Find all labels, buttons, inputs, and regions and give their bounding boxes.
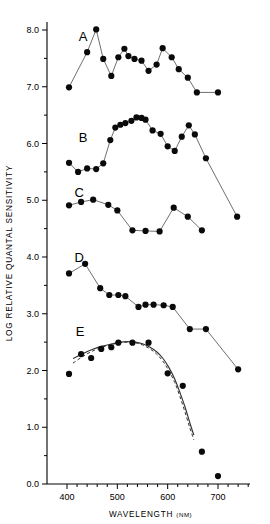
data-point-B [107,137,113,143]
data-point-B [149,127,155,133]
data-point-B [84,165,90,171]
data-point-D [170,304,176,310]
data-point-C [185,214,191,220]
data-point-D [66,270,72,276]
data-point-D [106,292,112,298]
data-point-B [179,134,185,140]
data-point-C [129,227,135,233]
data-point-E [129,340,135,346]
series-label-D: D [74,250,83,265]
series-label-E: E [76,324,85,339]
y-tick-label: 7.0 [26,82,39,92]
data-point-C [142,228,148,234]
data-point-B [158,131,164,137]
y-tick-label: 0.0 [26,479,39,489]
data-point-B [100,160,106,166]
data-point-C [157,228,163,234]
data-point-A [131,56,137,62]
data-point-A [84,49,90,55]
data-point-B [165,143,171,149]
data-point-E [66,371,72,377]
data-point-E [108,344,114,350]
y-tick-label: 4.0 [26,252,39,262]
data-point-A [93,26,99,32]
data-point-E [78,351,84,357]
data-point-B [66,160,72,166]
data-point-B [192,131,198,137]
data-point-D [161,302,167,308]
data-point-A [115,54,121,60]
data-point-D [203,326,209,332]
y-tick-label: 1.0 [26,422,39,432]
data-point-A [145,68,151,74]
data-point-B [172,148,178,154]
x-axis-title: WAVELENGTH (NM) [109,510,192,519]
data-point-A [169,54,175,60]
y-tick-label: 3.0 [26,309,39,319]
data-point-A [100,56,106,62]
data-point-A [185,75,191,81]
data-point-D [97,285,103,291]
data-point-A [153,62,159,68]
data-point-A [176,66,182,72]
data-point-E [98,346,104,352]
x-tick-label: 600 [160,492,175,502]
data-point-D [115,292,121,298]
y-tick-label: 6.0 [26,139,39,149]
data-point-E [145,340,151,346]
data-point-C [114,207,120,213]
y-tick-label: 8.0 [26,25,39,35]
data-point-A [66,84,72,90]
data-point-C [90,197,96,203]
x-axis-unit: (NM) [176,511,192,518]
data-point-D [142,302,148,308]
data-point-C [105,202,111,208]
data-point-B [122,120,128,126]
y-axis-title: LOG RELATIVE QUANTAL SENSITIVITY [5,165,14,342]
data-point-A [108,73,114,79]
data-point-D [150,302,156,308]
data-point-E [180,383,186,389]
data-point-A [121,46,127,52]
y-tick-label: 5.0 [26,195,39,205]
data-point-E [165,370,171,376]
data-point-D [135,304,141,310]
data-point-B [93,166,99,172]
data-point-C [199,227,205,233]
data-point-C [171,205,177,211]
chart-container: 400500600700 0.01.02.03.04.05.06.07.08.0… [0,0,270,524]
data-point-D [122,293,128,299]
data-point-C [66,202,72,208]
data-point-D [235,366,241,372]
data-point-B [186,122,192,128]
y-tick-label: 2.0 [26,366,39,376]
data-point-A [138,58,144,64]
x-tick-label: 700 [210,492,225,502]
plot-background [0,0,270,524]
data-point-E [215,473,221,479]
data-point-B [142,117,148,123]
data-point-B [75,169,81,175]
data-point-B [234,214,240,220]
data-point-D [187,326,193,332]
data-point-E [115,340,121,346]
series-label-B: B [79,130,88,145]
data-point-A [160,45,166,51]
data-point-B [203,155,209,161]
x-tick-label: 400 [59,492,74,502]
spectral-sensitivity-chart: 400500600700 0.01.02.03.04.05.06.07.08.0… [0,0,270,524]
data-point-A [215,89,221,95]
data-point-B [128,118,134,124]
x-tick-label: 500 [110,492,125,502]
series-label-A: A [79,29,88,44]
data-point-E [199,449,205,455]
data-point-A [194,89,200,95]
data-point-A [125,53,131,59]
data-point-E [88,355,94,361]
series-label-C: C [74,185,83,200]
